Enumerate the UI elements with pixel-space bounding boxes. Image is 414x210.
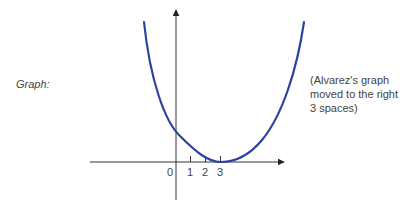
shifted-curve: [144, 22, 304, 162]
x-tick-label-3: 3: [217, 166, 223, 178]
x-tick-label-0: 0: [167, 166, 173, 178]
graph-plot: 0 1 2 3: [0, 0, 414, 210]
x-tick-label-1: 1: [187, 166, 193, 178]
x-tick-label-2: 2: [202, 166, 208, 178]
